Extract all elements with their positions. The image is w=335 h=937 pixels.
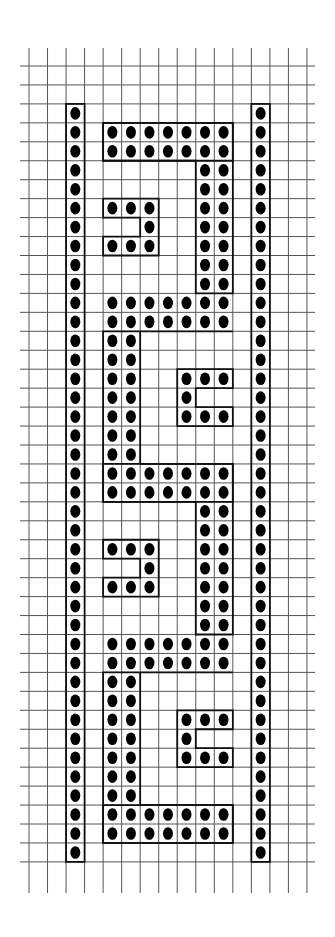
bead-dot — [163, 638, 173, 651]
bead-dot — [70, 562, 80, 575]
bead-dot — [70, 202, 80, 215]
bead-dot — [182, 486, 192, 499]
bead-dot — [144, 202, 154, 215]
bead-dot — [144, 240, 154, 253]
bead-dot — [256, 278, 266, 291]
bead-dot — [107, 751, 117, 764]
bead-dot — [200, 145, 210, 158]
bead-dot — [126, 543, 136, 556]
bead-dot — [126, 713, 136, 726]
bead-dot — [144, 543, 154, 556]
bead-dot — [126, 770, 136, 783]
bead-dot — [200, 221, 210, 234]
bead-dot — [126, 410, 136, 423]
bead-dot — [126, 676, 136, 689]
bead-dot — [126, 202, 136, 215]
bead-dot — [126, 486, 136, 499]
bead-dot — [70, 278, 80, 291]
bead-dot — [126, 638, 136, 651]
bead-dot — [219, 505, 229, 518]
bead-dot — [126, 240, 136, 253]
bead-dot — [256, 391, 266, 404]
bead-dot — [107, 391, 117, 404]
bead-dot — [256, 581, 266, 594]
bead-dot — [70, 353, 80, 366]
bead-dot — [219, 562, 229, 575]
bead-dot — [256, 240, 266, 253]
bead-dot — [107, 467, 117, 480]
bead-dot — [219, 581, 229, 594]
bead-dot — [256, 713, 266, 726]
bead-dot — [107, 353, 117, 366]
bead-dot — [200, 657, 210, 670]
bead-dot — [126, 751, 136, 764]
bead-dot — [256, 145, 266, 158]
bead-dot — [70, 107, 80, 120]
bead-dot — [70, 751, 80, 764]
bead-dot — [70, 638, 80, 651]
bead-dot — [126, 316, 136, 329]
bead-dot — [107, 334, 117, 347]
bead-dot — [219, 638, 229, 651]
bead-dot — [256, 789, 266, 802]
bead-dot — [126, 467, 136, 480]
bead-dot — [70, 145, 80, 158]
bead-dot — [70, 827, 80, 840]
bead-dot — [126, 126, 136, 139]
bead-dot — [70, 695, 80, 708]
bead-dot — [70, 770, 80, 783]
bead-dot — [126, 297, 136, 310]
bead-dot — [200, 126, 210, 139]
bead-dot — [70, 316, 80, 329]
bead-dot — [256, 353, 266, 366]
bead-dot — [219, 619, 229, 632]
bead-dot — [256, 827, 266, 840]
bead-dot — [219, 713, 229, 726]
bead-dot — [163, 316, 173, 329]
bead-dot — [144, 486, 154, 499]
bead-dot — [182, 316, 192, 329]
bead-dot — [163, 467, 173, 480]
bead-dot — [200, 297, 210, 310]
bead-dot — [256, 183, 266, 196]
bead-dot — [163, 126, 173, 139]
bead-dot — [200, 808, 210, 821]
bead-dot — [256, 562, 266, 575]
bead-dot — [256, 334, 266, 347]
bead-dot — [219, 278, 229, 291]
bead-dot — [70, 543, 80, 556]
bead-dot — [70, 524, 80, 537]
bead-dot — [219, 316, 229, 329]
bead-dot — [200, 183, 210, 196]
bead-dot — [256, 619, 266, 632]
bead-dot — [107, 657, 117, 670]
bead-dot — [219, 221, 229, 234]
bead-dot — [107, 126, 117, 139]
bead-dot — [256, 259, 266, 272]
bead-dot — [256, 126, 266, 139]
bead-dot — [256, 316, 266, 329]
bead-dot — [126, 353, 136, 366]
bead-dot — [70, 789, 80, 802]
bead-dot — [144, 657, 154, 670]
bead-dot — [182, 808, 192, 821]
bead-dot — [219, 372, 229, 385]
bead-dot — [200, 278, 210, 291]
bead-dot — [256, 448, 266, 461]
bead-dot — [70, 676, 80, 689]
bead-dot — [70, 126, 80, 139]
bead-dot — [163, 297, 173, 310]
bead-dot — [219, 145, 229, 158]
bead-dot — [219, 164, 229, 177]
bead-dot — [219, 808, 229, 821]
bead-dot — [256, 429, 266, 442]
bead-dot — [182, 410, 192, 423]
bead-dot — [256, 107, 266, 120]
bead-dot — [256, 505, 266, 518]
bead-dot — [70, 221, 80, 234]
bead-dot — [70, 164, 80, 177]
bead-dot — [70, 732, 80, 745]
bead-dot — [200, 638, 210, 651]
bead-dot — [70, 240, 80, 253]
bead-dot — [70, 334, 80, 347]
